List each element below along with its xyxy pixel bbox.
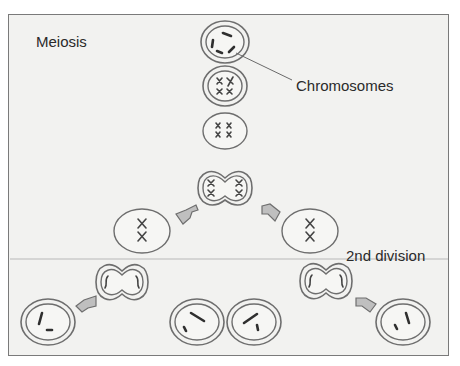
- gamete-1: [21, 299, 75, 345]
- dividing-cell-right: [300, 264, 352, 299]
- arrow-down-left-icon: [176, 205, 198, 224]
- gamete-3: [227, 299, 281, 345]
- arrow-right-icon: [356, 298, 376, 312]
- daughter-cell-right: [282, 209, 338, 253]
- daughter-cell-left: [114, 209, 170, 253]
- dividing-cell-left: [96, 265, 148, 300]
- interphase-cell: [201, 21, 249, 63]
- prophase-cell: [203, 66, 247, 106]
- meiosis-diagram: [0, 0, 460, 366]
- arrow-left-icon: [76, 296, 96, 312]
- anaphase-I-cell: [198, 172, 252, 205]
- metaphase-cell: [203, 113, 247, 149]
- second-division-label: 2nd division: [346, 247, 425, 264]
- chromosomes-label: Chromosomes: [296, 77, 394, 94]
- gamete-2: [170, 299, 224, 345]
- diagram-title: Meiosis: [36, 33, 87, 50]
- gamete-4: [376, 299, 430, 345]
- arrow-down-right-icon: [262, 204, 280, 221]
